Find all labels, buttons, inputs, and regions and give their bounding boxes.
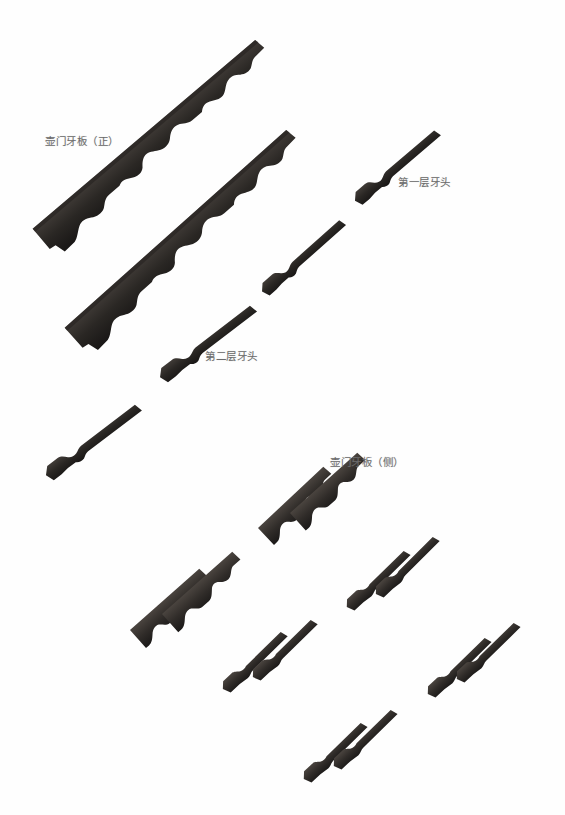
furniture-piece (258, 216, 348, 299)
piece-shape (65, 129, 314, 357)
piece-shape (330, 706, 400, 773)
label-apron-front: 壶门牙板（正） (45, 133, 119, 148)
furniture-piece (424, 634, 494, 701)
label-second-layer-tooth: 第二层牙头 (205, 348, 258, 363)
label-first-layer-tooth: 第一层牙头 (398, 174, 451, 189)
furniture-piece (33, 39, 282, 258)
piece-shape (42, 400, 144, 483)
piece-shape (453, 619, 523, 686)
furniture-piece (351, 126, 443, 208)
furniture-piece (249, 616, 320, 684)
piece-shape (351, 126, 443, 208)
furniture-piece (330, 706, 400, 773)
piece-shape (424, 634, 494, 701)
label-apron-side: 壶门牙板（侧） (330, 454, 404, 469)
piece-shape (33, 39, 282, 258)
piece-shape (372, 533, 442, 601)
pieces-layer (33, 39, 523, 786)
furniture-parts-illustration (0, 0, 565, 815)
furniture-piece (156, 301, 259, 386)
piece-shape (258, 216, 348, 299)
piece-shape (156, 301, 259, 386)
furniture-piece (42, 400, 144, 483)
photo-plate: 壶门牙板（正） 第一层牙头 第二层牙头 壶门牙板（侧） (0, 0, 565, 815)
furniture-piece (453, 619, 523, 686)
piece-shape (249, 616, 320, 684)
furniture-piece (65, 129, 314, 357)
furniture-piece (372, 533, 442, 601)
